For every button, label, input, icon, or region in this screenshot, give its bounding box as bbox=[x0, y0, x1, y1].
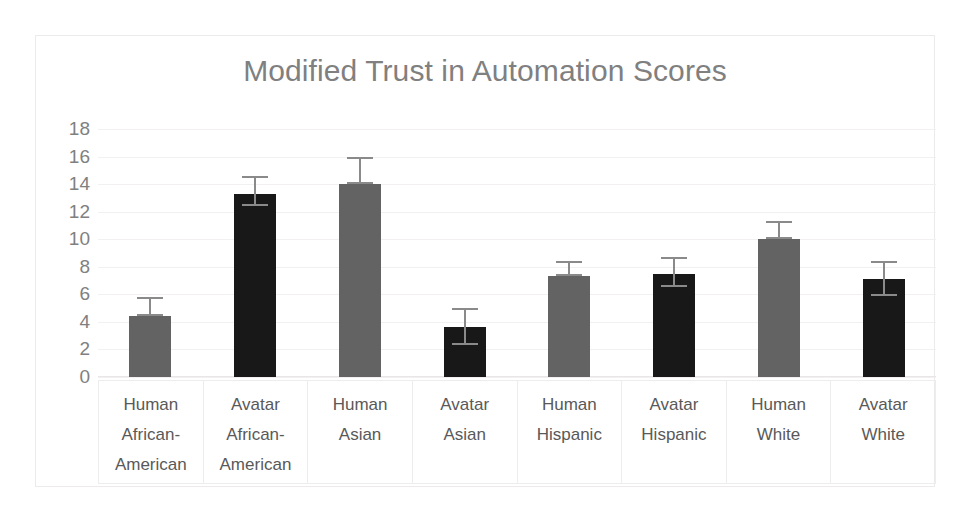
bar-group bbox=[412, 129, 517, 377]
error-bar bbox=[556, 261, 582, 276]
bar-avatar-african-american bbox=[234, 194, 276, 377]
y-tick-label-6: 6 bbox=[50, 283, 90, 305]
error-bar bbox=[137, 297, 163, 316]
chart-title: Modified Trust in Automation Scores bbox=[36, 54, 934, 88]
category-label-line-1: Avatar bbox=[231, 390, 280, 420]
error-bar-cap-top bbox=[347, 157, 373, 159]
category-label-line-1: Avatar bbox=[650, 390, 699, 420]
category-label-line-2: White bbox=[861, 420, 904, 450]
category-axis-table: HumanAfrican-AmericanAvatarAfrican-Ameri… bbox=[98, 380, 936, 484]
category-label-line-1: Human bbox=[333, 390, 388, 420]
error-bar-cap-bottom bbox=[556, 274, 582, 276]
category-label-line-2: White bbox=[757, 420, 800, 450]
y-tick-label-12: 12 bbox=[50, 201, 90, 223]
error-bar bbox=[871, 261, 897, 295]
error-bar-stem bbox=[254, 176, 256, 206]
category-label-line-1: Human bbox=[542, 390, 597, 420]
error-bar-cap-bottom bbox=[452, 343, 478, 345]
category-label-line-1: Avatar bbox=[440, 390, 489, 420]
y-tick-label-2: 2 bbox=[50, 338, 90, 360]
error-bar-cap-top bbox=[556, 261, 582, 263]
bar-group bbox=[203, 129, 308, 377]
bar-human-asian bbox=[339, 184, 381, 377]
error-bar-stem bbox=[883, 261, 885, 295]
category-label-line-3: American bbox=[115, 450, 187, 480]
y-tick-label-0: 0 bbox=[50, 366, 90, 388]
error-bar bbox=[766, 221, 792, 239]
category-cell-avatar-african-american: AvatarAfrican-American bbox=[203, 380, 309, 484]
category-cell-avatar-white: AvatarWhite bbox=[830, 380, 936, 484]
bar-human-hispanic bbox=[548, 276, 590, 377]
bar-avatar-hispanic bbox=[653, 274, 695, 377]
error-bar-cap-top bbox=[452, 308, 478, 310]
error-bar-cap-top bbox=[137, 297, 163, 299]
chart-frame: Modified Trust in Automation Scores 1816… bbox=[35, 35, 935, 487]
y-tick-label-10: 10 bbox=[50, 228, 90, 250]
category-label-line-2: African- bbox=[226, 420, 285, 450]
category-label-line-2: Asian bbox=[339, 420, 382, 450]
category-label-line-3: American bbox=[220, 450, 292, 480]
error-bar-cap-bottom bbox=[242, 204, 268, 206]
error-bar bbox=[661, 257, 687, 287]
error-bar bbox=[452, 308, 478, 345]
category-label-line-1: Human bbox=[123, 390, 178, 420]
bar-group bbox=[727, 129, 832, 377]
gridline-0 bbox=[98, 377, 936, 378]
bar-group bbox=[831, 129, 936, 377]
category-label-line-2: Hispanic bbox=[537, 420, 602, 450]
category-label-line-2: Hispanic bbox=[641, 420, 706, 450]
category-cell-human-hispanic: HumanHispanic bbox=[517, 380, 623, 484]
y-tick-label-4: 4 bbox=[50, 311, 90, 333]
category-label-line-2: African- bbox=[122, 420, 181, 450]
error-bar-stem bbox=[359, 157, 361, 185]
bar-group bbox=[517, 129, 622, 377]
error-bar-cap-bottom bbox=[347, 182, 373, 184]
y-tick-label-18: 18 bbox=[50, 118, 90, 140]
bar-group bbox=[622, 129, 727, 377]
error-bar bbox=[242, 176, 268, 206]
bar-human-white bbox=[758, 239, 800, 377]
error-bar-cap-top bbox=[766, 221, 792, 223]
error-bar-cap-bottom bbox=[661, 285, 687, 287]
category-cell-human-asian: HumanAsian bbox=[307, 380, 413, 484]
error-bar-cap-top bbox=[871, 261, 897, 263]
error-bar-stem bbox=[673, 257, 675, 287]
error-bar-cap-bottom bbox=[766, 237, 792, 239]
bar-group bbox=[308, 129, 413, 377]
category-cell-avatar-asian: AvatarAsian bbox=[412, 380, 518, 484]
category-cell-human-african-american: HumanAfrican-American bbox=[98, 380, 204, 484]
category-label-line-1: Avatar bbox=[859, 390, 908, 420]
y-tick-label-16: 16 bbox=[50, 146, 90, 168]
y-tick-label-8: 8 bbox=[50, 256, 90, 278]
error-bar bbox=[347, 157, 373, 185]
category-cell-avatar-hispanic: AvatarHispanic bbox=[621, 380, 727, 484]
category-label-line-2: Asian bbox=[443, 420, 486, 450]
y-tick-label-14: 14 bbox=[50, 173, 90, 195]
bar-human-african-american bbox=[129, 316, 171, 377]
error-bar-stem bbox=[464, 308, 466, 345]
plot-area: 181614121086420 bbox=[98, 129, 936, 377]
error-bar-cap-top bbox=[661, 257, 687, 259]
error-bar-cap-bottom bbox=[871, 294, 897, 296]
error-bar-cap-bottom bbox=[137, 314, 163, 316]
error-bar-cap-top bbox=[242, 176, 268, 178]
category-label-line-1: Human bbox=[751, 390, 806, 420]
bar-group bbox=[98, 129, 203, 377]
category-cell-human-white: HumanWhite bbox=[726, 380, 832, 484]
